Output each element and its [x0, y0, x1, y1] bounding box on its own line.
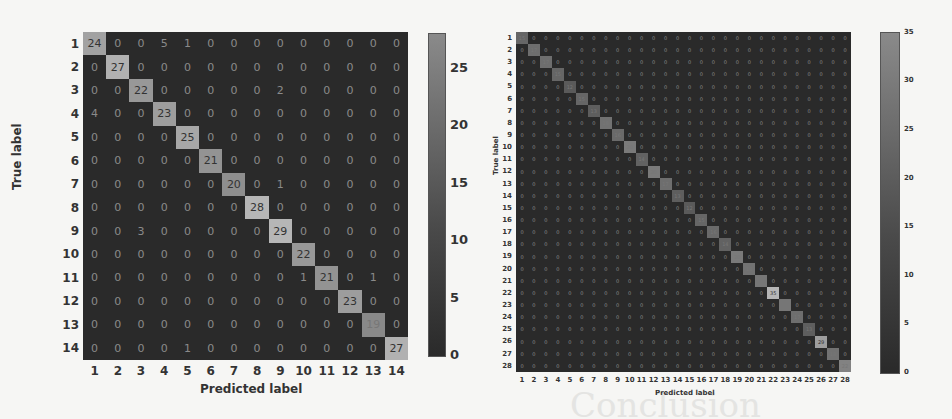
matrix-cell: 0 — [672, 202, 684, 214]
matrix-cell: 0 — [707, 214, 719, 226]
matrix-cell: 0 — [385, 313, 408, 336]
matrix-cell: 0 — [385, 79, 408, 102]
matrix-cell: 0 — [552, 287, 564, 299]
matrix-cell: 15 — [552, 68, 564, 80]
matrix-cell: 0 — [684, 299, 696, 311]
matrix-cell: 0 — [803, 311, 815, 323]
matrix-cell: 0 — [779, 251, 791, 263]
matrix-cell: 0 — [672, 275, 684, 287]
matrix-cell: 0 — [719, 311, 731, 323]
matrix-cell: 0 — [791, 299, 803, 311]
matrix-cell: 0 — [588, 287, 600, 299]
matrix-cell: 0 — [827, 238, 839, 250]
matrix-cell: 0 — [528, 81, 540, 93]
matrix-cell: 0 — [588, 251, 600, 263]
matrix-cell: 0 — [624, 166, 636, 178]
matrix-cell: 17 — [791, 311, 803, 323]
matrix-cell: 0 — [827, 263, 839, 275]
matrix-cell: 0 — [767, 56, 779, 68]
matrix-cell: 0 — [576, 214, 588, 226]
matrix-cell: 0 — [588, 214, 600, 226]
matrix-cell: 0 — [269, 337, 292, 360]
matrix-cell: 0 — [684, 178, 696, 190]
matrix-cell: 0 — [83, 219, 106, 242]
matrix-cell: 0 — [684, 56, 696, 68]
matrix-cell: 0 — [755, 44, 767, 56]
matrix-cell: 0 — [516, 117, 528, 129]
matrix-cell: 1 — [292, 266, 315, 289]
matrix-cell: 0 — [600, 348, 612, 360]
matrix-cell: 0 — [636, 202, 648, 214]
matrix-cell: 0 — [636, 275, 648, 287]
matrix-cell: 0 — [779, 81, 791, 93]
matrix-cell: 0 — [176, 196, 199, 219]
matrix-cell: 0 — [731, 190, 743, 202]
matrix-cell: 0 — [564, 214, 576, 226]
matrix-cell: 0 — [624, 299, 636, 311]
matrix-cell: 0 — [199, 196, 222, 219]
matrix-cell: 0 — [672, 214, 684, 226]
matrix-cell: 0 — [660, 93, 672, 105]
matrix-cell: 0 — [839, 105, 851, 117]
matrix-cell: 0 — [755, 214, 767, 226]
matrix-cell: 0 — [588, 323, 600, 335]
matrix-cell: 0 — [743, 129, 755, 141]
matrix-cell: 0 — [153, 243, 176, 266]
matrix-cell: 0 — [803, 44, 815, 56]
matrix-cell: 0 — [815, 81, 827, 93]
matrix-cell: 0 — [731, 348, 743, 360]
matrix-cell: 0 — [222, 266, 245, 289]
matrix-cell: 0 — [576, 105, 588, 117]
matrix-cell: 0 — [612, 190, 624, 202]
matrix-cell: 0 — [245, 102, 268, 125]
matrix-cell: 14 — [719, 238, 731, 250]
matrix-cell: 0 — [540, 214, 552, 226]
matrix-cell: 0 — [588, 336, 600, 348]
matrix-cell: 0 — [552, 105, 564, 117]
matrix-cell: 0 — [83, 337, 106, 360]
matrix-cell: 0 — [516, 178, 528, 190]
matrix-cell: 0 — [292, 313, 315, 336]
matrix-cell: 0 — [719, 105, 731, 117]
matrix-cell: 0 — [576, 336, 588, 348]
matrix-cell: 0 — [767, 44, 779, 56]
matrix-cell: 0 — [552, 226, 564, 238]
matrix-cell: 0 — [636, 263, 648, 275]
matrix-cell: 0 — [827, 214, 839, 226]
matrix-cell: 0 — [695, 105, 707, 117]
matrix-cell: 0 — [292, 337, 315, 360]
matrix-cell: 0 — [695, 93, 707, 105]
matrix-cell: 0 — [106, 337, 129, 360]
matrix-cell: 19 — [779, 299, 791, 311]
matrix-cell: 0 — [743, 166, 755, 178]
matrix-cell: 0 — [564, 287, 576, 299]
matrix-cell: 13 — [672, 190, 684, 202]
x-tick: 28 — [835, 376, 855, 384]
matrix-cell: 1 — [362, 266, 385, 289]
matrix-cell: 0 — [516, 129, 528, 141]
y-tick: 23 — [492, 301, 512, 309]
matrix-cell: 0 — [153, 126, 176, 149]
matrix-cell: 0 — [648, 238, 660, 250]
matrix-cell: 0 — [755, 166, 767, 178]
matrix-cell: 0 — [815, 311, 827, 323]
matrix-cell: 0 — [528, 56, 540, 68]
matrix-cell: 0 — [695, 68, 707, 80]
matrix-cell: 0 — [695, 190, 707, 202]
matrix-cell: 0 — [564, 323, 576, 335]
matrix-cell: 0 — [385, 173, 408, 196]
matrix-cell: 0 — [362, 55, 385, 78]
matrix-cell: 0 — [684, 287, 696, 299]
matrix-cell: 0 — [695, 263, 707, 275]
matrix-cell: 0 — [684, 141, 696, 153]
matrix-cell: 0 — [624, 214, 636, 226]
matrix-cell: 0 — [803, 287, 815, 299]
matrix-cell: 0 — [528, 275, 540, 287]
colorbar-tick: 30 — [904, 76, 914, 84]
matrix-cell: 0 — [292, 55, 315, 78]
matrix-cell: 0 — [516, 348, 528, 360]
matrix-cell: 0 — [636, 214, 648, 226]
matrix-cell: 0 — [755, 287, 767, 299]
matrix-cell: 0 — [684, 153, 696, 165]
x-axis-title: Predicted label — [200, 382, 302, 396]
